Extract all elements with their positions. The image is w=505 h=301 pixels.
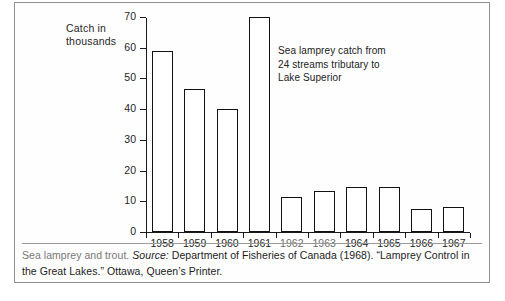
y-tick-label: 40 bbox=[124, 102, 136, 115]
y-tick-label: 10 bbox=[124, 194, 136, 207]
bar bbox=[314, 191, 335, 232]
bar bbox=[346, 187, 367, 232]
figure-caption: Sea lamprey and trout. Source: Departmen… bbox=[22, 248, 484, 279]
bar bbox=[249, 17, 270, 232]
bar bbox=[184, 89, 205, 232]
y-tick-label: 70 bbox=[124, 10, 136, 23]
y-tick: 10 bbox=[140, 201, 146, 202]
y-tick-label: 30 bbox=[124, 133, 136, 146]
bar bbox=[411, 209, 432, 232]
bar bbox=[281, 197, 302, 232]
caption-lead: Sea lamprey and trout. bbox=[22, 249, 129, 261]
y-tick: 40 bbox=[140, 109, 146, 110]
bar bbox=[152, 51, 173, 232]
bar bbox=[379, 187, 400, 232]
y-tick-label: 0 bbox=[130, 225, 136, 238]
plot-area: 010203040506070 bbox=[146, 18, 470, 233]
y-tick: 20 bbox=[140, 171, 146, 172]
bar bbox=[217, 109, 238, 232]
bar bbox=[443, 207, 464, 232]
y-tick-label: 60 bbox=[124, 41, 136, 54]
y-tick-label: 20 bbox=[124, 164, 136, 177]
y-tick: 50 bbox=[140, 78, 146, 79]
caption-source-label: Source: bbox=[132, 249, 169, 261]
caption-divider bbox=[22, 243, 482, 244]
y-axis-line bbox=[146, 18, 147, 234]
y-tick: 70 bbox=[140, 17, 146, 18]
y-tick: 60 bbox=[140, 48, 146, 49]
caption-source-text: Department of Fisheries of Canada (1968)… bbox=[172, 249, 421, 261]
x-tick bbox=[470, 233, 471, 238]
y-tick: 30 bbox=[140, 140, 146, 141]
y-tick-label: 50 bbox=[124, 71, 136, 84]
y-axis-label-line1: Catch in bbox=[66, 22, 146, 35]
